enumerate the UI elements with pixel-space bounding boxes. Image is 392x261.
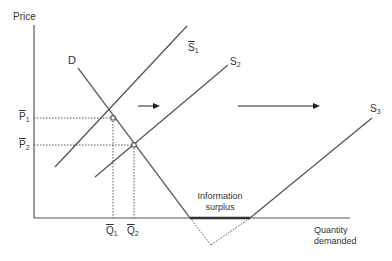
equilibrium-marker-1 [111, 116, 115, 120]
q1-label: Q1 [106, 226, 118, 237]
q1-subscript: 1 [114, 230, 118, 237]
p1-letter: P [19, 111, 26, 122]
y-axis-label: Price [13, 12, 36, 22]
p1-subscript: 1 [26, 116, 30, 123]
s1-letter: S [188, 42, 195, 53]
p1-label: P1 [19, 112, 30, 123]
p2-subscript: 2 [26, 144, 30, 151]
p2-letter: P [19, 139, 26, 150]
supply-demand-chart [0, 0, 392, 261]
information-surplus-label: Information surplus [190, 191, 250, 213]
s2-subscript: 2 [237, 61, 241, 68]
q2-letter: Q [127, 225, 135, 236]
demand-label: D [68, 55, 76, 66]
surplus-line1: Information [190, 191, 250, 202]
x-axis-line1: Quantity [314, 225, 357, 236]
shift-arrow-small [138, 103, 160, 109]
demand-dotted-extension [190, 218, 211, 245]
s3-letter: S [370, 103, 377, 114]
equilibrium-marker-2 [132, 143, 136, 147]
q2-label: Q2 [127, 226, 139, 237]
s1-subscript: 1 [195, 47, 199, 54]
x-axis-label: Quantity demanded [314, 225, 357, 247]
supply-curve-s3 [250, 118, 372, 218]
p2-label: P2 [19, 140, 30, 151]
s2-letter: S [230, 56, 237, 67]
supply-curve-s2 [95, 65, 228, 177]
s3-subscript: 3 [377, 108, 381, 115]
s3-label: S3 [370, 104, 381, 115]
s3-dotted-extension [211, 218, 250, 245]
q2-subscript: 2 [135, 230, 139, 237]
surplus-line2: surplus [190, 202, 250, 213]
x-axis-line2: demanded [314, 236, 357, 247]
q1-letter: Q [106, 225, 114, 236]
shift-arrow-large [238, 103, 320, 109]
supply-curve-s1 [55, 26, 187, 167]
s2-label: S2 [230, 57, 241, 68]
s1-label: S1 [188, 43, 199, 54]
